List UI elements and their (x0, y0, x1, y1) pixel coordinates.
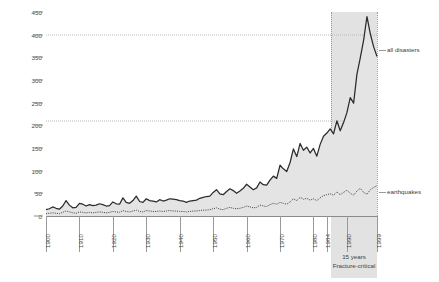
band-annotation: 15 years Fracture-critical (331, 252, 377, 270)
x-tick-label: 1980 (311, 234, 318, 248)
x-tick-label: 1920 (110, 234, 117, 248)
y-tick-mark (34, 102, 43, 103)
y-tick-mark (34, 34, 43, 35)
x-tick-label: 1900 (44, 234, 51, 248)
earthquakes-leader (379, 192, 386, 193)
all-disasters-area (46, 17, 377, 216)
x-tick-label: 1910 (77, 234, 84, 248)
all-disasters-leader (379, 50, 386, 51)
disasters-line-chart: 050100150200250300350400450 190019101920… (0, 0, 439, 282)
band-annotation-line2: Fracture-critical (331, 261, 377, 270)
series-canvas (46, 12, 377, 216)
x-tick-label: 1990 (345, 234, 352, 248)
x-tick-label: 1999 (375, 234, 382, 248)
y-tick-mark (34, 80, 43, 81)
y-tick-mark (34, 57, 43, 58)
x-tick-label: 1950 (211, 234, 218, 248)
y-tick-mark (34, 12, 43, 13)
y-tick-mark (34, 170, 43, 171)
y-tick-mark (34, 148, 43, 149)
x-tick-label: 1940 (177, 234, 184, 248)
x-tick-label: 1984 (324, 234, 331, 248)
x-tick-label: 1970 (278, 234, 285, 248)
x-tick-label: 1960 (244, 234, 251, 248)
x-axis-baseline (46, 216, 378, 217)
band-annotation-line1: 15 years (331, 252, 377, 261)
y-tick-mark (34, 125, 43, 126)
y-tick-mark (34, 193, 43, 194)
y-tick-mark (34, 216, 43, 217)
band-right-edge (377, 12, 378, 216)
series-label-all-disasters: all disasters (387, 46, 420, 53)
plot-area (46, 12, 377, 216)
x-tick-label: 1930 (144, 234, 151, 248)
series-label-earthquakes: earthquakes (387, 188, 421, 195)
